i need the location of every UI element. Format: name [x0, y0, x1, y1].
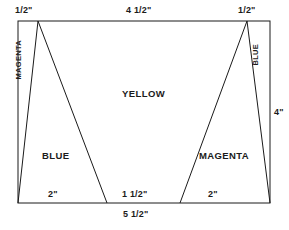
dimension-right-side: 4"	[274, 108, 284, 117]
dimension-bottom-overall: 5 1/2"	[123, 210, 148, 219]
dimension-bottom-left: 2"	[48, 190, 58, 199]
region-label-left-sliver: MAGENTA	[15, 40, 23, 79]
region-label-right-sliver: BLUE	[252, 44, 260, 66]
dimension-top-left: 1/2"	[15, 6, 33, 15]
dimension-top-center: 4 1/2"	[126, 6, 151, 15]
region-label-center: YELLOW	[122, 89, 165, 99]
dimension-top-right: 1/2"	[238, 6, 256, 15]
diagram-canvas: 1/2" 4 1/2" 1/2" 4" 2" 1 1/2" 2" 5 1/2" …	[0, 0, 289, 230]
region-label-right-triangle: MAGENTA	[199, 151, 249, 161]
panel-outline	[18, 21, 270, 203]
dimension-bottom-right: 2"	[208, 190, 218, 199]
dimension-bottom-center: 1 1/2"	[122, 190, 147, 199]
region-label-left-triangle: BLUE	[42, 151, 69, 161]
